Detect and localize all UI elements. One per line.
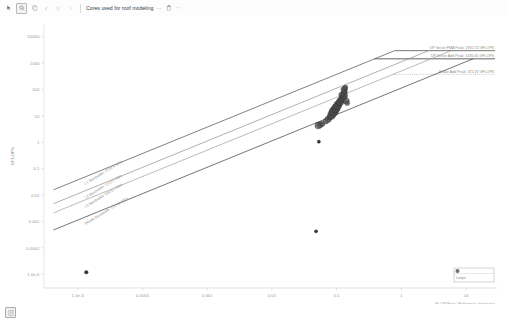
scatter-point[interactable] [345,101,350,106]
y-tick-label: 0.01 [31,193,40,198]
chevron-right-icon[interactable] [66,4,75,13]
y-tick-label: 1.0e-5 [27,272,40,277]
cursor-icon[interactable] [4,4,13,13]
x-tick-label: 0.001 [202,293,214,298]
chevron-first-icon[interactable] [54,4,63,13]
x-tick-label: 0.01 [268,293,277,298]
page-icon[interactable] [5,307,16,318]
y-tick-label: 1 [37,140,40,145]
scatter-series [315,85,350,129]
x-tick-label: 0.1 [334,293,341,298]
scatter-point[interactable] [314,230,317,233]
legend-label: Loops [456,276,466,280]
y-tick-label: 1000 [30,61,40,66]
document-toolbar: Cores used for roof modeling ··· [0,0,508,16]
x-tick-label: 1.0e-5 [72,293,85,298]
chevron-left-icon[interactable] [42,4,51,13]
y-tick-label: 100 [32,87,40,92]
bottom-strip [0,304,508,322]
document-title: Cores used for roof modeling [86,5,153,11]
scatter-point[interactable] [84,270,88,274]
y-tick-label: 10000 [27,34,40,39]
copy-icon[interactable] [30,4,39,13]
y-tick-label: 0.001 [29,219,41,224]
ceiling-label: Scalar Add Peak: 372.37 GFLOPS [439,70,495,74]
trash-icon[interactable] [164,4,173,13]
roofline-plot-svg: 1000010001001010.10.010.0010.00011.0e-51… [0,16,508,306]
more-horizontal-icon[interactable]: ··· [156,5,161,11]
bandwidth-roof-label: L1 Bandwidth: 3733.4 GB/s [84,159,124,185]
ceiling-label: DP Vector FMA Peak: 2932.72 GFLOPS [430,46,495,50]
x-tick-label: 10 [464,293,469,298]
y-tick-label: 10 [35,114,40,119]
scatter-point[interactable] [343,85,347,89]
y-tick-label: 0.1 [33,166,40,171]
roofline-chart: 1000010001001010.10.010.0010.00011.0e-51… [0,16,508,306]
scatter-point[interactable] [317,140,320,143]
x-tick-label: 1 [400,293,403,298]
y-axis-title: GFLOP/s [10,146,15,165]
chevron-down-icon[interactable] [176,5,181,11]
magnifier-icon[interactable] [16,3,27,14]
toolbar-divider [80,4,81,13]
x-tick-label: 0.0001 [136,293,150,298]
y-tick-label: 0.0001 [26,246,40,251]
legend-marker [456,269,460,273]
